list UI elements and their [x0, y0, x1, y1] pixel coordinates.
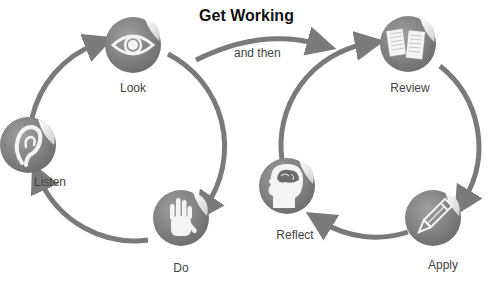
step-label-do: Do — [141, 261, 221, 275]
step-apply-badge — [405, 190, 461, 246]
step-reflect-badge — [259, 158, 315, 214]
step-label-look: Look — [93, 81, 173, 95]
step-label-apply: Apply — [403, 258, 483, 272]
step-listen-badge — [0, 117, 56, 173]
diagram-canvas — [0, 0, 493, 284]
step-do-badge — [153, 190, 209, 246]
diagram-title: Get Working — [0, 7, 493, 25]
arrow-look-to-do — [168, 54, 225, 206]
step-label-review: Review — [370, 81, 450, 95]
step-look-badge — [105, 17, 161, 73]
step-label-listen: Listen — [10, 175, 90, 189]
step-label-reflect: Reflect — [255, 228, 335, 242]
arrow-reflect-to-review — [281, 44, 366, 160]
arrow-do-to-listen — [40, 180, 148, 241]
connector-label: and then — [234, 46, 281, 60]
arrow-listen-to-look — [32, 44, 96, 118]
